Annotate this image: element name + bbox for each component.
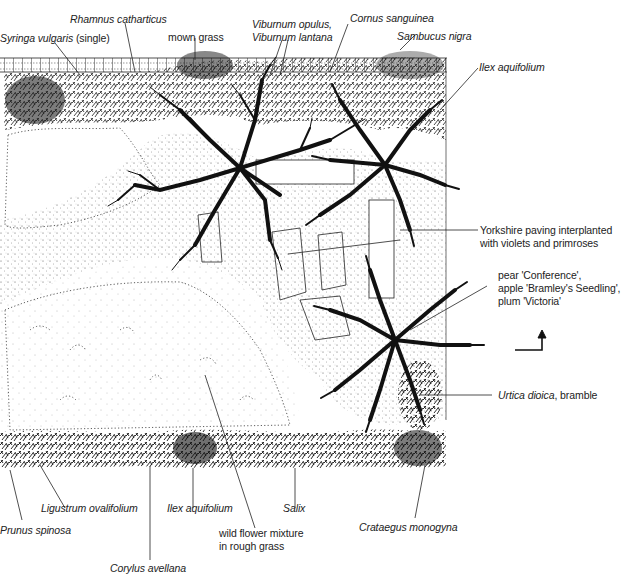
label-urtica-dioica: Urtica dioica, bramble [498, 389, 597, 402]
label-yorkshire-paving: Yorkshire paving interplanted with viole… [480, 224, 612, 250]
label-viburnum-lantana: Viburnum lantana [252, 31, 333, 44]
label-sambucus-nigra: Sambucus nigra [397, 30, 471, 43]
label-urtica-species: Urtica dioica [498, 389, 554, 401]
label-ligustrum-ovalifolium: Ligustrum ovalifolium [41, 502, 138, 515]
label-syringa-species: Syringa vulgaris [0, 32, 73, 44]
label-cornus-sanguinea: Cornus sanguinea [350, 12, 434, 25]
label-mown-grass: mown grass [168, 31, 224, 44]
label-paving-line1: Yorkshire paving interplanted [480, 224, 612, 237]
label-viburnum-opulus: Viburnum opulus, [252, 18, 333, 31]
label-plum-victoria: plum 'Victoria' [498, 295, 620, 308]
label-crataegus-monogyna: Crataegus monogyna [359, 521, 458, 534]
label-ilex-aquifolium-bottom: Ilex aquifolium [167, 502, 233, 515]
label-rhamnus-catharticus: Rhamnus catharticus [70, 13, 167, 26]
label-wildflower-line2: in rough grass [219, 540, 303, 553]
label-wildflower-line1: wild flower mixture [219, 527, 303, 540]
label-syringa-vulgaris: Syringa vulgaris (single) [0, 32, 110, 45]
label-ilex-aquifolium-top: Ilex aquifolium [479, 61, 545, 74]
label-wild-flower-mixture: wild flower mixture in rough grass [219, 527, 303, 553]
label-pear-conference: pear 'Conference', [498, 269, 620, 282]
label-prunus-spinosa: Prunus spinosa [0, 524, 71, 537]
label-corylus-avellana: Corylus avellana [110, 562, 186, 575]
paving-slab-horizontal [256, 160, 354, 184]
label-syringa-note: (single) [73, 32, 109, 44]
label-fruit-trees: pear 'Conference', apple 'Bramley's Seed… [498, 269, 620, 308]
label-urtica-suffix: , bramble [554, 389, 597, 401]
north-arrow-icon [515, 330, 546, 350]
label-viburnum: Viburnum opulus, Viburnum lantana [252, 18, 333, 44]
label-apple-bramley: apple 'Bramley's Seedling', [498, 282, 620, 295]
label-paving-line2: with violets and primroses [480, 237, 612, 250]
label-salix: Salix [283, 502, 305, 515]
